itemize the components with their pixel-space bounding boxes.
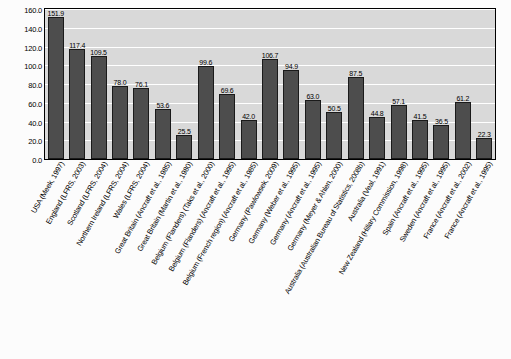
y-axis-tick: 160.0 <box>2 6 42 15</box>
x-axis: USA (Meek, 1997)England (LFRS, 2003)Scot… <box>44 161 496 351</box>
bar-value-label: 117.4 <box>69 42 85 49</box>
bar-value-label: 99.6 <box>199 59 212 66</box>
bar-value-label: 106.7 <box>262 52 279 59</box>
bar-value-label: 109.5 <box>90 49 107 56</box>
bar-value-label: 76.1 <box>135 81 148 88</box>
y-axis-tick: 40.0 <box>2 118 42 127</box>
y-axis: 0.020.040.060.080.0100.0120.0140.0160.0 <box>2 2 42 164</box>
y-axis-tick: 0.0 <box>2 156 42 165</box>
y-axis-tick: 100.0 <box>2 62 42 71</box>
y-axis-tick: 140.0 <box>2 24 42 33</box>
y-axis-tick: 120.0 <box>2 43 42 52</box>
y-axis-tick: 20.0 <box>2 137 42 146</box>
bar-value-label: 78.0 <box>114 79 127 86</box>
bar-column: 151.9 <box>48 9 64 159</box>
bar-value-label: 151.9 <box>47 10 64 17</box>
bar-value-label: 87.5 <box>349 70 362 77</box>
y-axis-tick: 60.0 <box>2 99 42 108</box>
x-axis-tick-text: England (LFRS, 2003) <box>44 160 87 226</box>
chart-page: 0.020.040.060.080.0100.0120.0140.0160.0 … <box>0 0 511 359</box>
bar: 151.9 <box>48 17 64 159</box>
y-axis-tick: 80.0 <box>2 81 42 90</box>
